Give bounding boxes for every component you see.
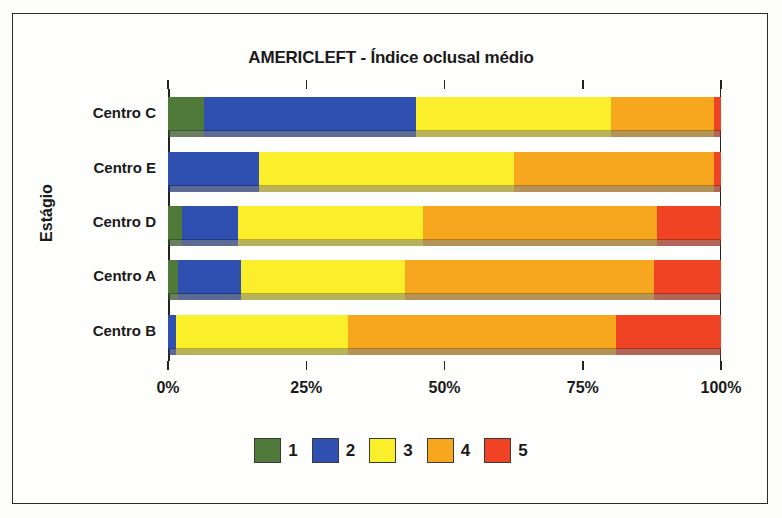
bar-segment-shadow bbox=[168, 293, 178, 300]
legend-item[interactable]: 2 bbox=[312, 438, 355, 463]
bar-segment-shadow bbox=[348, 348, 616, 355]
legend-item[interactable]: 4 bbox=[427, 438, 470, 463]
bar-segment bbox=[657, 206, 721, 240]
bar-segment bbox=[168, 260, 178, 294]
legend-swatch bbox=[369, 438, 396, 463]
x-tick bbox=[444, 361, 446, 370]
bar-segment bbox=[514, 152, 714, 186]
x-tick bbox=[720, 361, 722, 370]
bar-segment bbox=[423, 206, 657, 240]
bar-segment bbox=[416, 97, 611, 131]
bar-segment bbox=[168, 206, 182, 240]
bar-segment bbox=[168, 152, 259, 186]
legend-item[interactable]: 5 bbox=[484, 438, 527, 463]
bar-segment-shadow bbox=[168, 348, 176, 355]
bar-segment bbox=[204, 97, 416, 131]
bar-segment-shadow bbox=[178, 293, 241, 300]
bar-segment-shadow bbox=[241, 293, 405, 300]
bar-segment-shadow bbox=[259, 185, 514, 192]
bar-segment bbox=[178, 260, 241, 294]
x-tick bbox=[167, 361, 169, 370]
category-label: Centro B bbox=[93, 322, 156, 339]
bar-segment-shadow bbox=[714, 130, 721, 137]
bar-segment-shadow bbox=[168, 130, 204, 137]
category-label: Centro C bbox=[93, 104, 156, 121]
bar-segment-shadow bbox=[416, 130, 611, 137]
legend-item[interactable]: 3 bbox=[369, 438, 412, 463]
legend-label: 4 bbox=[461, 441, 470, 461]
bar-segment bbox=[259, 152, 514, 186]
bar-segment-shadow bbox=[168, 239, 182, 246]
legend-swatch bbox=[254, 438, 281, 463]
category-label: Centro D bbox=[93, 213, 156, 230]
bar-segment-shadow bbox=[611, 130, 714, 137]
legend-item[interactable]: 1 bbox=[254, 438, 297, 463]
bar-segment bbox=[714, 152, 721, 186]
bar-segment bbox=[611, 97, 714, 131]
bar-segment-shadow bbox=[238, 239, 424, 246]
x-tick-top bbox=[167, 80, 169, 89]
bar-row: Centro E bbox=[168, 152, 721, 190]
legend-label: 5 bbox=[518, 441, 527, 461]
bar-segment-shadow bbox=[168, 185, 259, 192]
bar-segment bbox=[616, 315, 721, 349]
bar-row: Centro C bbox=[168, 97, 721, 135]
bar-segment-shadow bbox=[616, 348, 721, 355]
chart-title: AMERICLEFT - Índice oclusal médio bbox=[13, 48, 769, 68]
legend-label: 2 bbox=[346, 441, 355, 461]
plot-area: 0%25%50%75%100% Centro CCentro ECentro D… bbox=[168, 89, 721, 361]
x-tick-label: 100% bbox=[701, 379, 742, 397]
x-tick-label: 50% bbox=[428, 379, 460, 397]
figure-frame: AMERICLEFT - Índice oclusal médio Estági… bbox=[12, 13, 768, 504]
chart-legend: 12345 bbox=[13, 438, 769, 463]
x-tick-label: 0% bbox=[156, 379, 179, 397]
legend-swatch bbox=[312, 438, 339, 463]
y-axis-label: Estágio bbox=[38, 143, 56, 283]
category-label: Centro A bbox=[93, 267, 156, 284]
bar-segment bbox=[348, 315, 616, 349]
x-tick bbox=[582, 361, 584, 370]
bar-segment-shadow bbox=[423, 239, 657, 246]
chart-figure: AMERICLEFT - Índice oclusal médio Estági… bbox=[0, 0, 782, 518]
bar-segment bbox=[176, 315, 348, 349]
x-tick-label: 75% bbox=[567, 379, 599, 397]
bar-segment-shadow bbox=[176, 348, 348, 355]
legend-label: 3 bbox=[403, 441, 412, 461]
legend-label: 1 bbox=[288, 441, 297, 461]
bar-segment-shadow bbox=[204, 130, 416, 137]
x-tick-top bbox=[306, 80, 308, 89]
bar-segment-shadow bbox=[182, 239, 238, 246]
x-tick-label: 25% bbox=[290, 379, 322, 397]
bar-row: Centro B bbox=[168, 315, 721, 353]
legend-swatch bbox=[484, 438, 511, 463]
x-tick-top bbox=[444, 80, 446, 89]
bar-row: Centro A bbox=[168, 260, 721, 298]
bar-segment bbox=[238, 206, 424, 240]
category-label: Centro E bbox=[93, 159, 156, 176]
bar-segment-shadow bbox=[405, 293, 654, 300]
bar-segment bbox=[714, 97, 721, 131]
bar-segment bbox=[182, 206, 238, 240]
bar-segment-shadow bbox=[657, 239, 721, 246]
bar-segment-shadow bbox=[714, 185, 721, 192]
bar-segment bbox=[168, 97, 204, 131]
bar-segment bbox=[405, 260, 654, 294]
bar-segment-shadow bbox=[514, 185, 714, 192]
bar-segment-shadow bbox=[654, 293, 721, 300]
bar-segment bbox=[241, 260, 405, 294]
bar-segment bbox=[654, 260, 721, 294]
x-tick-top bbox=[720, 80, 722, 89]
bar-segment bbox=[168, 315, 176, 349]
x-tick-top bbox=[582, 80, 584, 89]
x-tick bbox=[306, 361, 308, 370]
bar-row: Centro D bbox=[168, 206, 721, 244]
legend-swatch bbox=[427, 438, 454, 463]
